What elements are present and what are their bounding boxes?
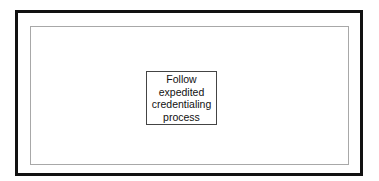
node-label-line: expedited [152, 86, 212, 99]
node-label: Follow expedited credentialing process [152, 73, 212, 123]
node-label-line: process [152, 111, 212, 124]
node-label-line: Follow [152, 73, 212, 86]
process-node: Follow expedited credentialing process [146, 71, 217, 125]
node-label-line: credentialing [152, 98, 212, 111]
